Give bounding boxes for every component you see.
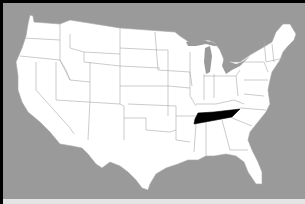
us-map [0,0,305,204]
map-frame [0,0,305,204]
